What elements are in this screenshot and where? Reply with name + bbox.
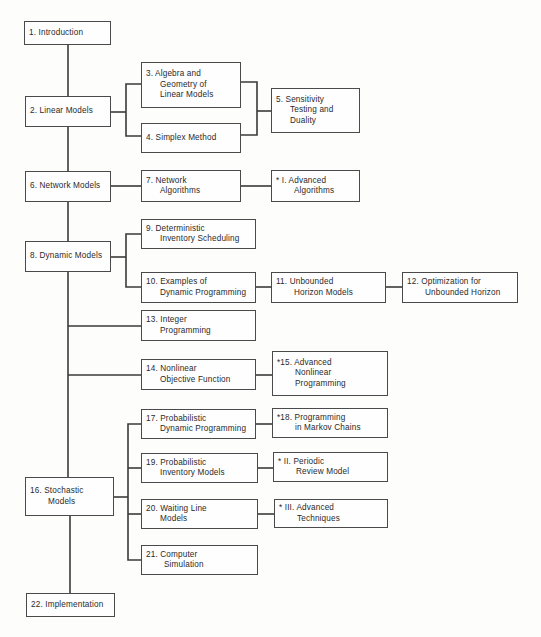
node-15-advanced-nonlinear: *15. Advanced Nonlinear Programming: [272, 351, 388, 396]
node-label: Inventory Scheduling: [146, 234, 251, 245]
node-label: 5. Sensitivity: [276, 95, 355, 106]
node-21-computer-simulation: 21. Computer Simulation: [141, 545, 258, 575]
node-label: 21. Computer: [146, 550, 253, 561]
node-3-algebra-geometry: 3. Algebra and Geometry of Linear Models: [141, 62, 241, 108]
node-label: Unbounded Horizon: [407, 288, 513, 299]
node-label: Dynamic Programming: [146, 424, 251, 435]
node-label: 7. Network: [146, 176, 236, 187]
node-label: 8. Dynamic Models: [30, 251, 106, 262]
node-label: Review Model: [278, 467, 383, 478]
node-label: Inventory Models: [146, 468, 253, 479]
node-label: 19. Probabilistic: [146, 458, 253, 469]
node-7-network-algorithms: 7. Network Algorithms: [141, 170, 241, 202]
node-label: Programming: [146, 326, 251, 337]
node-appendix-I-advanced-algorithms: * I. Advanced Algorithms: [271, 170, 360, 202]
node-label: *18. Programming: [277, 413, 383, 424]
node-12-optimization-unbounded: 12. Optimization for Unbounded Horizon: [402, 272, 518, 303]
node-label: Nonlinear: [277, 368, 383, 379]
node-label: 3. Algebra and: [146, 69, 236, 80]
node-label: Algorithms: [276, 186, 355, 197]
node-label: 6. Network Models: [30, 181, 106, 192]
node-label: Programming: [277, 379, 383, 390]
node-22-implementation: 22. Implementation: [26, 593, 115, 617]
node-8-dynamic-models: 8. Dynamic Models: [25, 241, 111, 272]
node-label: 22. Implementation: [31, 600, 110, 611]
node-label: Testing and: [276, 105, 355, 116]
node-label: 20. Waiting Line: [146, 504, 253, 515]
node-label: Techniques: [279, 514, 383, 525]
node-16-stochastic-models: 16. Stochastic Models: [25, 477, 114, 516]
node-label: 13. Integer: [146, 315, 251, 326]
node-label: Simulation: [146, 560, 253, 571]
node-label: Duality: [276, 116, 355, 127]
node-label: Models: [146, 514, 253, 525]
node-6-network-models: 6. Network Models: [25, 171, 111, 202]
node-19-probabilistic-inventory: 19. Probabilistic Inventory Models: [141, 453, 258, 483]
node-appendix-III-advanced-techniques: * III. Advanced Techniques: [274, 499, 388, 528]
node-label: 16. Stochastic: [30, 486, 109, 497]
node-label: 12. Optimization for: [407, 277, 513, 288]
node-label: * II. Periodic: [278, 457, 383, 468]
node-label: * I. Advanced: [276, 176, 355, 187]
node-label: Algorithms: [146, 186, 236, 197]
node-label: 10. Examples of: [146, 277, 251, 288]
node-label: Objective Function: [146, 375, 251, 386]
node-label: Horizon Models: [276, 288, 381, 299]
node-appendix-II-periodic-review: * II. Periodic Review Model: [273, 452, 388, 482]
chapter-flowchart: 1. Introduction 2. Linear Models 3. Alge…: [0, 0, 541, 637]
node-label: *15. Advanced: [277, 358, 383, 369]
node-4-simplex-method: 4. Simplex Method: [141, 123, 241, 153]
node-label: 11. Unbounded: [276, 277, 381, 288]
node-label: 14. Nonlinear: [146, 364, 251, 375]
node-9-deterministic-inventory: 9. Deterministic Inventory Scheduling: [141, 219, 256, 249]
node-1-introduction: 1. Introduction: [24, 21, 111, 45]
node-label: Geometry of: [146, 80, 236, 91]
node-label: * III. Advanced: [279, 503, 383, 514]
node-label: 4. Simplex Method: [146, 133, 236, 144]
node-label: 17. Probabilistic: [146, 414, 251, 425]
node-14-nonlinear-objective: 14. Nonlinear Objective Function: [141, 359, 256, 390]
node-label: Linear Models: [146, 90, 236, 101]
node-label: 2. Linear Models: [30, 106, 106, 117]
node-2-linear-models: 2. Linear Models: [25, 96, 111, 127]
node-20-waiting-line: 20. Waiting Line Models: [141, 499, 258, 529]
node-18-markov-chains: *18. Programming in Markov Chains: [272, 408, 388, 438]
node-11-unbounded-horizon: 11. Unbounded Horizon Models: [271, 272, 386, 303]
node-label: Dynamic Programming: [146, 288, 251, 299]
node-label: in Markov Chains: [277, 423, 383, 434]
node-label: 1. Introduction: [29, 28, 106, 39]
node-5-sensitivity: 5. Sensitivity Testing and Duality: [271, 88, 360, 133]
node-17-probabilistic-dp: 17. Probabilistic Dynamic Programming: [141, 409, 256, 439]
node-label: Models: [30, 497, 109, 508]
node-label: 9. Deterministic: [146, 224, 251, 235]
node-10-examples-dynamic-programming: 10. Examples of Dynamic Programming: [141, 272, 256, 303]
node-13-integer-programming: 13. Integer Programming: [141, 310, 256, 341]
